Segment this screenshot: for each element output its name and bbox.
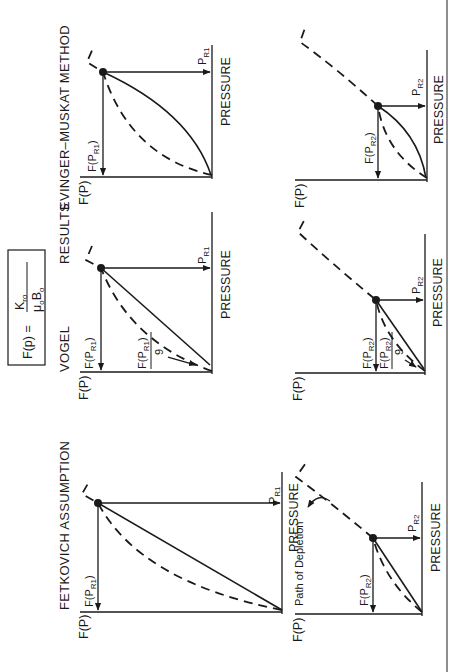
figure-page: F(p) = Kro μoBo FETKOVICH ASSUMPTION VOG… xyxy=(0,0,454,672)
fp-label: F(P) xyxy=(291,377,305,401)
title-evinger: EVINGER–MUSKAT METHOD xyxy=(57,25,72,210)
pr-label: PR2 xyxy=(410,276,425,294)
pressure-label: PRESSURE xyxy=(219,57,233,126)
path-of-depletion-label: Path of Depletion xyxy=(293,522,305,606)
panel-fetkovich-pr1: F(P) PRESSURE PR1 F(PR1) xyxy=(77,472,301,639)
panel-fetkovich-pr2: F(P) PRESSURE PR2 F(PR2) Path of Depleti… xyxy=(291,460,443,642)
fpr-label: F(PR1) xyxy=(86,140,101,172)
pr-label: PR1 xyxy=(196,246,211,264)
fp-label: F(P) xyxy=(77,376,91,400)
formula-denominator: μoBo xyxy=(30,287,46,312)
fpr-label: F(PR1) xyxy=(83,575,98,607)
operating-point xyxy=(372,296,380,304)
svg-text:9: 9 xyxy=(393,349,405,355)
fp-label: F(P) xyxy=(77,181,91,205)
pressure-label: PRESSURE xyxy=(219,250,233,319)
pressure-label: PRESSURE xyxy=(431,258,445,327)
fraction-label: F(PR1) 9 xyxy=(136,332,165,369)
operating-point xyxy=(97,264,105,272)
panel-evinger-pr1: F(P) PRESSURE PR1 F(PR1) xyxy=(77,45,233,205)
figure-canvas: F(p) = Kro μoBo FETKOVICH ASSUMPTION VOG… xyxy=(0,0,454,672)
pr-label: PR1 xyxy=(196,47,211,65)
fpr-label: F(PR2) xyxy=(361,337,376,369)
fp-label: F(P) xyxy=(77,615,91,639)
pr-label: PR2 xyxy=(410,78,425,96)
formula-lhs: F(p) = xyxy=(21,325,35,359)
pr-label: PR1 xyxy=(267,486,282,504)
operating-point xyxy=(369,534,377,542)
title-vogel: VOGEL xyxy=(57,326,72,372)
operating-point xyxy=(374,102,382,110)
fpr-label: F(PR2) xyxy=(358,574,373,606)
pr-label: PR2 xyxy=(406,514,421,532)
formula-box: F(p) = Kro μoBo xyxy=(8,250,46,365)
svg-text:F(PR2): F(PR2) xyxy=(378,337,393,369)
fp-label: F(P) xyxy=(291,618,305,642)
svg-text:9: 9 xyxy=(153,349,165,355)
panel-evinger-pr2: F(P) PRESSURE PR2 F(PR2) xyxy=(293,28,446,208)
pressure-label: PRESSURE xyxy=(429,503,443,572)
operating-point xyxy=(99,68,107,76)
title-vogel-results: RESULTS xyxy=(57,203,72,264)
svg-text:F(PR1): F(PR1) xyxy=(136,337,151,369)
title-fetkovich: FETKOVICH ASSUMPTION xyxy=(57,441,72,610)
pressure-label: PRESSURE xyxy=(432,75,446,144)
panel-vogel-pr2: F(P) PRESSURE PR2 F(PR2) F(PR2) 9 xyxy=(291,217,445,401)
fpr-label: F(PR1) xyxy=(83,337,98,369)
fp-label: F(P) xyxy=(293,184,307,208)
operating-point xyxy=(94,499,102,507)
fpr-label: F(PR2) xyxy=(363,132,378,164)
panel-vogel-pr1: F(P) PRESSURE PR1 F(PR1) F(PR1) 9 xyxy=(77,212,233,400)
